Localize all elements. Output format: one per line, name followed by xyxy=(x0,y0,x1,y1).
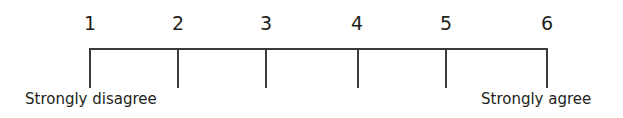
scale-point-6: 6 xyxy=(541,14,553,33)
left-anchor-label: Strongly disagree xyxy=(25,92,157,107)
scale-tick-2 xyxy=(177,48,179,88)
scale-point-1: 1 xyxy=(84,14,96,33)
scale-point-3: 3 xyxy=(260,14,272,33)
scale-point-4: 4 xyxy=(351,14,363,33)
scale-point-2: 2 xyxy=(172,14,184,33)
scale-point-5: 5 xyxy=(440,14,452,33)
scale-axis-line xyxy=(90,48,548,50)
scale-tick-5 xyxy=(445,48,447,88)
scale-tick-1 xyxy=(89,48,91,88)
scale-tick-6 xyxy=(546,48,548,88)
scale-tick-3 xyxy=(265,48,267,88)
scale-tick-4 xyxy=(357,48,359,88)
right-anchor-label: Strongly agree xyxy=(481,92,591,107)
